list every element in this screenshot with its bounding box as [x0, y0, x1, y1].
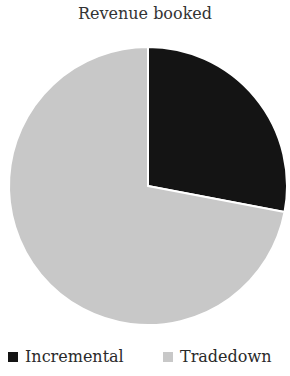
pie-slice-incremental: [148, 47, 287, 212]
legend-swatch-icon: [8, 352, 18, 362]
pie-slices: [9, 47, 287, 325]
legend: Incremental Tradedown: [0, 347, 290, 371]
legend-label: Tradedown: [180, 347, 271, 366]
legend-swatch-icon: [163, 352, 173, 362]
legend-label: Incremental: [25, 347, 124, 366]
pie-chart: [0, 0, 290, 376]
legend-item-tradedown: Tradedown: [163, 347, 271, 366]
legend-item-incremental: Incremental: [8, 347, 124, 366]
